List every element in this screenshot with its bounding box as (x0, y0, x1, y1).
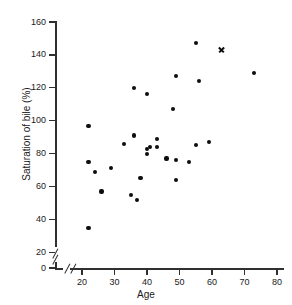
data-point-patients-25 (194, 143, 198, 147)
data-point-patients-5 (109, 166, 113, 170)
data-point-patients-18 (164, 156, 168, 160)
x-axis-title: Age (0, 290, 292, 300)
data-point-patients-19 (171, 107, 175, 111)
data-point-patients-2 (86, 160, 90, 164)
data-point-patients-24 (194, 41, 198, 45)
data-point-patients-21 (174, 158, 178, 162)
data-point-patients-9 (132, 86, 136, 90)
data-point-patients-17 (155, 145, 159, 149)
data-point-patients-1 (86, 226, 90, 230)
data-point-outlier-0 (218, 46, 225, 53)
data-point-patients-20 (174, 74, 178, 78)
data-point-patients-11 (138, 176, 142, 180)
data-point-patients-10 (135, 198, 139, 202)
y-axis-title: Saturation of bile (%) (22, 49, 32, 219)
data-point-patients-28 (252, 71, 256, 75)
scatter-plot-figure: 020406080100120140160 20304050607080 Age… (0, 0, 292, 305)
data-point-patients-23 (187, 160, 191, 164)
data-point-patients-15 (148, 145, 152, 149)
data-point-patients-6 (122, 142, 126, 146)
data-point-patients-22 (174, 178, 178, 182)
data-point-patients-16 (155, 137, 159, 141)
data-point-patients-13 (145, 152, 149, 156)
plot-data-area (0, 0, 292, 305)
data-point-patients-8 (132, 133, 136, 137)
data-point-patients-27 (207, 140, 211, 144)
data-point-patients-4 (99, 189, 103, 193)
data-point-patients-12 (145, 92, 149, 96)
data-point-patients-3 (93, 170, 97, 174)
data-point-patients-0 (86, 124, 90, 128)
data-point-patients-7 (129, 193, 133, 197)
data-point-patients-26 (197, 79, 201, 83)
